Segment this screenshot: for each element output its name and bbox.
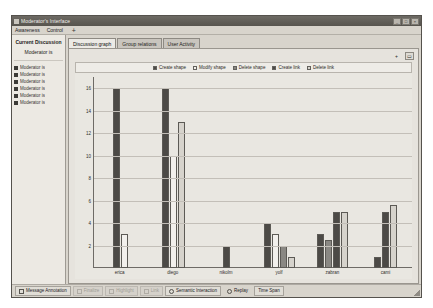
tab-discussion-graph[interactable]: Discussion graph [68, 38, 116, 48]
sidebar-subtitle: Moderator is [12, 49, 65, 60]
list-item[interactable]: Moderator is [14, 72, 63, 77]
grid-line [94, 88, 412, 89]
main-panel: Discussion graph Group relations User Ac… [66, 35, 421, 284]
user-label: Moderator is [20, 65, 45, 70]
y-tick-label: 12 [86, 131, 91, 136]
legend-item-modify-shape: Modify shape [193, 65, 226, 70]
user-status-icon [14, 80, 18, 84]
time-span-button[interactable]: Time Span [254, 286, 284, 296]
grid-line [94, 178, 412, 179]
tab-user-activity[interactable]: User Activity [163, 38, 201, 48]
user-status-icon [14, 66, 18, 70]
bar[interactable] [333, 212, 340, 268]
user-label: Moderator is [20, 72, 45, 77]
resize-grip[interactable] [414, 290, 420, 296]
x-tick-label: diego [146, 268, 199, 279]
legend-swatch-icon [153, 66, 157, 70]
sidebar-divider [14, 60, 63, 61]
x-tick-label: cami [359, 268, 412, 279]
x-tick-label: zabran [306, 268, 359, 279]
y-tick-label: 8 [88, 176, 91, 181]
bar[interactable] [317, 234, 324, 268]
bar[interactable] [170, 156, 177, 268]
sidebar-title: Current Discussion [12, 38, 65, 49]
legend-label: Create shape [159, 65, 186, 70]
highlight-button[interactable]: Highlight [105, 286, 138, 296]
bar[interactable] [121, 234, 128, 268]
menu-item-control[interactable]: Control [47, 27, 63, 33]
tag-icon [19, 289, 24, 294]
plot-canvas [93, 77, 412, 268]
close-button[interactable]: × [411, 18, 419, 25]
message-annotation-button[interactable]: Message Annotation [15, 286, 71, 296]
minimize-button[interactable]: _ [393, 18, 401, 25]
tab-group-relations[interactable]: Group relations [117, 38, 161, 48]
grid-line [94, 133, 412, 134]
legend-item-delete-shape: Delete shape [233, 65, 266, 70]
check-icon [77, 289, 82, 294]
list-item[interactable]: Moderator is [14, 79, 63, 84]
panel-toolbar: + ▭ [69, 49, 418, 62]
legend-swatch-icon [272, 66, 276, 70]
x-axis: ericadiegonikolmyolfzabrancami [93, 268, 412, 279]
bar-group [359, 77, 412, 268]
add-icon[interactable]: + [392, 52, 401, 60]
activity-bar-chart: Create shape Modify shape Delete shape [75, 62, 412, 279]
list-item[interactable]: Moderator is [14, 93, 63, 98]
y-tick-label: 16 [86, 86, 91, 91]
list-item[interactable]: Moderator is [14, 86, 63, 91]
menu-item-awareness[interactable]: Awareness [15, 27, 40, 33]
user-label: Moderator is [20, 93, 45, 98]
bar-group [94, 77, 147, 268]
play-icon [227, 289, 232, 294]
list-item[interactable]: Moderator is [14, 65, 63, 70]
button-label: Link [151, 288, 159, 294]
x-tick-label: nikolm [199, 268, 252, 279]
application-window: Moderator's Interface _ □ × Awareness Co… [11, 15, 422, 298]
tab-strip: Discussion graph Group relations User Ac… [68, 37, 419, 48]
bar[interactable] [341, 212, 348, 268]
sidebar: Current Discussion Moderator is Moderato… [12, 35, 66, 284]
view-toggle-icon[interactable]: ▭ [405, 52, 414, 60]
y-tick-label: 2 [88, 243, 91, 248]
link-button[interactable]: Link [140, 286, 163, 296]
bar[interactable] [280, 246, 287, 268]
button-label: Message Annotation [26, 288, 67, 294]
bar[interactable] [325, 240, 332, 268]
legend-swatch-icon [307, 66, 311, 70]
bar[interactable] [223, 246, 230, 268]
user-status-icon [14, 94, 18, 98]
bar-group [253, 77, 306, 268]
x-tick-label: erica [93, 268, 146, 279]
list-item[interactable]: Moderator is [14, 100, 63, 105]
semantic-interaction-button[interactable]: Semantic Interaction [165, 286, 221, 296]
maximize-button[interactable]: □ [402, 18, 410, 25]
button-label: Replay [234, 288, 248, 294]
bar[interactable] [382, 212, 389, 268]
grid-line [94, 156, 412, 157]
window-controls: _ □ × [393, 18, 419, 25]
x-tick-label: yolf [253, 268, 306, 279]
pen-icon [109, 289, 114, 294]
tab-content-panel: + ▭ Create shape Modify shape [68, 48, 419, 284]
legend-label: Create link [278, 65, 300, 70]
bar[interactable] [374, 257, 381, 268]
grid-line [94, 246, 412, 247]
bar[interactable] [272, 234, 279, 268]
title-bar: Moderator's Interface _ □ × [12, 16, 421, 26]
replay-button[interactable]: Replay [223, 286, 252, 296]
y-tick-label: 6 [88, 198, 91, 203]
bar[interactable] [288, 257, 295, 268]
user-label: Moderator is [20, 79, 45, 84]
bar[interactable] [390, 205, 397, 268]
user-list: Moderator is Moderator is Moderator is M… [12, 65, 65, 105]
add-menu-icon[interactable]: + [72, 27, 76, 34]
bar-group [306, 77, 359, 268]
window-title: Moderator's Interface [21, 18, 393, 24]
user-label: Moderator is [20, 100, 45, 105]
app-icon [14, 19, 19, 24]
bar-group [200, 77, 253, 268]
legend-swatch-icon [233, 66, 237, 70]
finalize-button[interactable]: Finalize [73, 286, 104, 296]
legend-item-delete-link: Delete link [307, 65, 334, 70]
